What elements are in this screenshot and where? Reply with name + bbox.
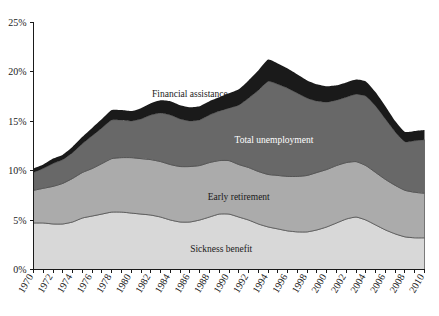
series-bands-group [34,60,425,270]
x-tick-label: 2000 [309,272,329,295]
x-tick-label: 1996 [270,272,290,295]
series-annotation-sickness-benefit: Sickness benefit [190,244,252,254]
x-tick-label: 1990 [211,272,231,295]
chart-canvas: 0%5%10%15%20%25%197019721974197619781980… [0,0,439,316]
y-tick-label: 25% [8,17,26,28]
x-tick-label: 2002 [329,272,349,295]
x-tick-label: 2006 [368,272,388,295]
x-tick-label: 1992 [231,272,251,295]
y-tick-label: 20% [8,66,26,77]
series-annotation-total-unemployment: Total unemployment [235,135,314,145]
series-annotation-early-retirement: Early retirement [208,192,270,202]
x-tick-label: 1980 [113,272,133,295]
x-tick-label: 1986 [172,272,192,295]
x-tick-label: 2008 [387,272,407,295]
x-tick-label: 1988 [192,272,212,295]
x-tick-label: 1982 [133,272,153,295]
x-tick-label: 1970 [16,272,36,295]
x-tick-label: 1978 [94,272,114,295]
x-tick-label: 1976 [74,272,94,295]
y-tick-label: 15% [8,116,26,127]
x-tick-label: 1994 [250,272,270,295]
x-tick-label: 1972 [35,272,55,295]
x-tick-label: 1998 [289,272,309,295]
x-tick-label: 2004 [348,272,368,295]
series-annotation-financial-assistance: Financial assistance [152,89,228,99]
x-tick-label: 2010 [407,272,427,295]
stacked-area-chart: 0%5%10%15%20%25%197019721974197619781980… [0,0,439,316]
y-tick-label: 5% [13,215,26,226]
y-tick-label: 10% [8,165,26,176]
x-tick-label: 1974 [55,272,75,295]
series-band-sickness-benefit [34,212,425,270]
x-tick-label: 1984 [153,272,173,295]
